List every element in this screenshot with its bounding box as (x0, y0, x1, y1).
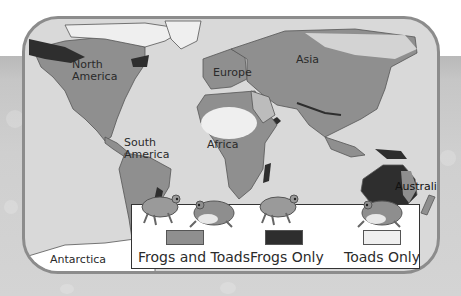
legend-label-toads-only: Toads Only (344, 249, 420, 265)
decorative-bubble (220, 282, 236, 294)
legend-item-toads-only: Toads Only (342, 205, 421, 270)
legend-item-frogs-only: Frogs Only (250, 205, 340, 270)
map-legend: Frogs and Toads Frogs Only Toads Only (131, 204, 420, 269)
legend-swatch-toads-only (363, 230, 401, 245)
continent-label-antarctica: Antarctica (50, 254, 106, 266)
decorative-bubble (440, 150, 456, 166)
continent-label-south-america: South America (124, 137, 169, 161)
continent-label-africa: Africa (207, 139, 238, 151)
continent-label-australia: Australia (395, 181, 440, 193)
legend-label-frogs-and-toads: Frogs and Toads (138, 249, 250, 265)
legend-label-frogs-only: Frogs Only (250, 249, 324, 265)
legend-item-frogs-and-toads: Frogs and Toads (132, 205, 242, 270)
continent-label-europe: Europe (213, 67, 252, 79)
decorative-bubble (60, 284, 74, 294)
toad-icon (354, 195, 406, 231)
legend-swatch-frogs-only (265, 230, 303, 245)
continent-label-asia: Asia (296, 54, 319, 66)
continent-label-north-america: North America (72, 59, 117, 83)
frog-icon (256, 191, 306, 227)
decorative-bubble (4, 200, 18, 214)
legend-swatch-frogs-and-toads (166, 230, 204, 245)
toad-icon (186, 195, 238, 231)
frog-icon (138, 191, 188, 227)
